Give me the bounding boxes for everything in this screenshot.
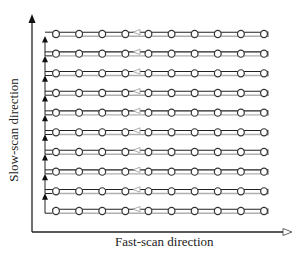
sample-point-icon	[145, 30, 152, 37]
sample-point-icon	[145, 188, 152, 195]
sample-point-icon	[76, 30, 83, 37]
sample-point-icon	[261, 168, 268, 175]
sample-point-icon	[214, 30, 221, 37]
sample-point-icon	[76, 188, 83, 195]
scan-plot	[0, 0, 306, 256]
sample-point-icon	[191, 207, 198, 214]
sample-point-icon	[53, 148, 60, 155]
sample-point-icon	[168, 50, 175, 57]
sample-point-icon	[53, 30, 60, 37]
y-axis-arrow-icon	[29, 14, 36, 23]
sample-point-icon	[122, 109, 129, 116]
sample-point-icon	[237, 148, 244, 155]
return-arrow-icon	[133, 69, 140, 74]
sample-point-icon	[145, 148, 152, 155]
sample-point-icon	[237, 188, 244, 195]
sample-point-icon	[76, 207, 83, 214]
sample-point-icon	[145, 50, 152, 57]
scan-diagram: Slow-scan direction Fast-scan direction	[0, 0, 306, 256]
sample-point-icon	[191, 148, 198, 155]
sample-point-icon	[261, 50, 268, 57]
sample-point-icon	[261, 70, 268, 77]
sample-point-icon	[214, 50, 221, 57]
sample-point-icon	[237, 30, 244, 37]
sample-point-icon	[122, 30, 129, 37]
step-arrow-icon	[42, 193, 48, 200]
sample-point-icon	[237, 168, 244, 175]
sample-point-icon	[237, 70, 244, 77]
sample-point-icon	[191, 188, 198, 195]
sample-point-icon	[214, 168, 221, 175]
sample-point-icon	[237, 129, 244, 136]
sample-point-icon	[53, 70, 60, 77]
return-arrow-icon	[133, 207, 140, 212]
sample-point-icon	[261, 109, 268, 116]
sample-point-icon	[191, 30, 198, 37]
return-arrow-icon	[133, 30, 140, 35]
sample-point-icon	[261, 207, 268, 214]
sample-point-icon	[214, 109, 221, 116]
sample-point-icon	[122, 89, 129, 96]
step-arrow-icon	[42, 115, 48, 122]
sample-point-icon	[261, 148, 268, 155]
scan-row	[52, 187, 268, 195]
return-arrow-icon	[133, 128, 140, 133]
step-arrow-icon	[42, 56, 48, 63]
sample-point-icon	[76, 168, 83, 175]
sample-point-icon	[122, 148, 129, 155]
sample-point-icon	[122, 70, 129, 77]
sample-point-icon	[145, 70, 152, 77]
sample-point-icon	[76, 50, 83, 57]
sample-point-icon	[214, 188, 221, 195]
scan-rows	[42, 30, 268, 215]
sample-point-icon	[191, 50, 198, 57]
sample-point-icon	[99, 109, 106, 116]
sample-point-icon	[122, 168, 129, 175]
sample-point-icon	[168, 168, 175, 175]
scan-row	[52, 49, 268, 57]
sample-point-icon	[214, 207, 221, 214]
sample-point-icon	[145, 109, 152, 116]
sample-point-icon	[191, 109, 198, 116]
return-arrow-icon	[133, 108, 140, 113]
sample-point-icon	[99, 30, 106, 37]
sample-point-icon	[261, 89, 268, 96]
sample-point-icon	[145, 168, 152, 175]
sample-point-icon	[76, 89, 83, 96]
sample-point-icon	[237, 50, 244, 57]
sample-point-icon	[122, 207, 129, 214]
sample-point-icon	[214, 148, 221, 155]
sample-point-icon	[168, 129, 175, 136]
sample-point-icon	[145, 129, 152, 136]
return-arrow-icon	[133, 89, 140, 94]
sample-point-icon	[76, 70, 83, 77]
sample-point-icon	[261, 30, 268, 37]
step-arrow-icon	[42, 154, 48, 161]
sample-point-icon	[191, 89, 198, 96]
sample-point-icon	[53, 89, 60, 96]
sample-point-icon	[53, 168, 60, 175]
return-arrow-icon	[133, 167, 140, 172]
sample-point-icon	[168, 70, 175, 77]
sample-point-icon	[214, 129, 221, 136]
sample-point-icon	[99, 50, 106, 57]
step-arrow-icon	[42, 36, 48, 43]
sample-point-icon	[261, 188, 268, 195]
sample-point-icon	[122, 129, 129, 136]
sample-point-icon	[191, 168, 198, 175]
step-arrow-icon	[42, 134, 48, 141]
scan-row	[52, 128, 268, 136]
return-arrow-icon	[133, 187, 140, 192]
sample-point-icon	[168, 89, 175, 96]
sample-point-icon	[237, 109, 244, 116]
sample-point-icon	[237, 89, 244, 96]
sample-point-icon	[76, 129, 83, 136]
sample-point-icon	[191, 70, 198, 77]
scan-row	[52, 89, 268, 97]
return-arrow-icon	[133, 49, 140, 54]
sample-point-icon	[99, 70, 106, 77]
scan-row	[52, 207, 268, 215]
x-axis-arrow-icon	[283, 229, 292, 236]
sample-point-icon	[53, 50, 60, 57]
sample-point-icon	[53, 207, 60, 214]
